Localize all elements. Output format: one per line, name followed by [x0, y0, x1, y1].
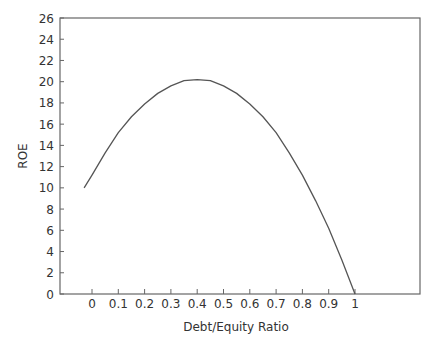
x-tick-label: 0.1	[109, 297, 128, 311]
y-tick-label: 2	[46, 266, 54, 280]
x-tick-label: 0.6	[240, 297, 259, 311]
x-axis-ticks: 00.10.20.30.40.50.60.70.80.91	[88, 289, 359, 311]
y-tick-label: 14	[39, 139, 54, 153]
x-tick-label: 0.5	[214, 297, 233, 311]
y-tick-label: 8	[46, 203, 54, 217]
y-tick-label: 16	[39, 118, 54, 132]
y-axis-title: ROE	[16, 143, 30, 168]
y-tick-label: 12	[39, 160, 54, 174]
y-tick-label: 10	[39, 181, 54, 195]
x-tick-label: 0.4	[188, 297, 207, 311]
x-tick-label: 1	[351, 297, 359, 311]
x-tick-label: 0.8	[293, 297, 312, 311]
roe-curve	[84, 80, 355, 294]
x-tick-label: 0.9	[319, 297, 338, 311]
x-tick-label: 0.3	[161, 297, 180, 311]
roe-chart: 02468101214161820222426 00.10.20.30.40.5…	[0, 0, 434, 348]
y-tick-label: 26	[39, 12, 54, 26]
plot-frame	[60, 18, 420, 294]
x-axis-title: Debt/Equity Ratio	[183, 320, 289, 334]
x-tick-label: 0.2	[135, 297, 154, 311]
y-tick-label: 24	[39, 33, 54, 47]
y-tick-label: 4	[46, 245, 54, 259]
y-tick-label: 22	[39, 54, 54, 68]
y-tick-label: 20	[39, 75, 54, 89]
y-tick-label: 0	[46, 288, 54, 302]
y-tick-label: 18	[39, 96, 54, 110]
x-tick-label: 0	[88, 297, 96, 311]
y-tick-label: 6	[46, 224, 54, 238]
x-tick-label: 0.7	[267, 297, 286, 311]
